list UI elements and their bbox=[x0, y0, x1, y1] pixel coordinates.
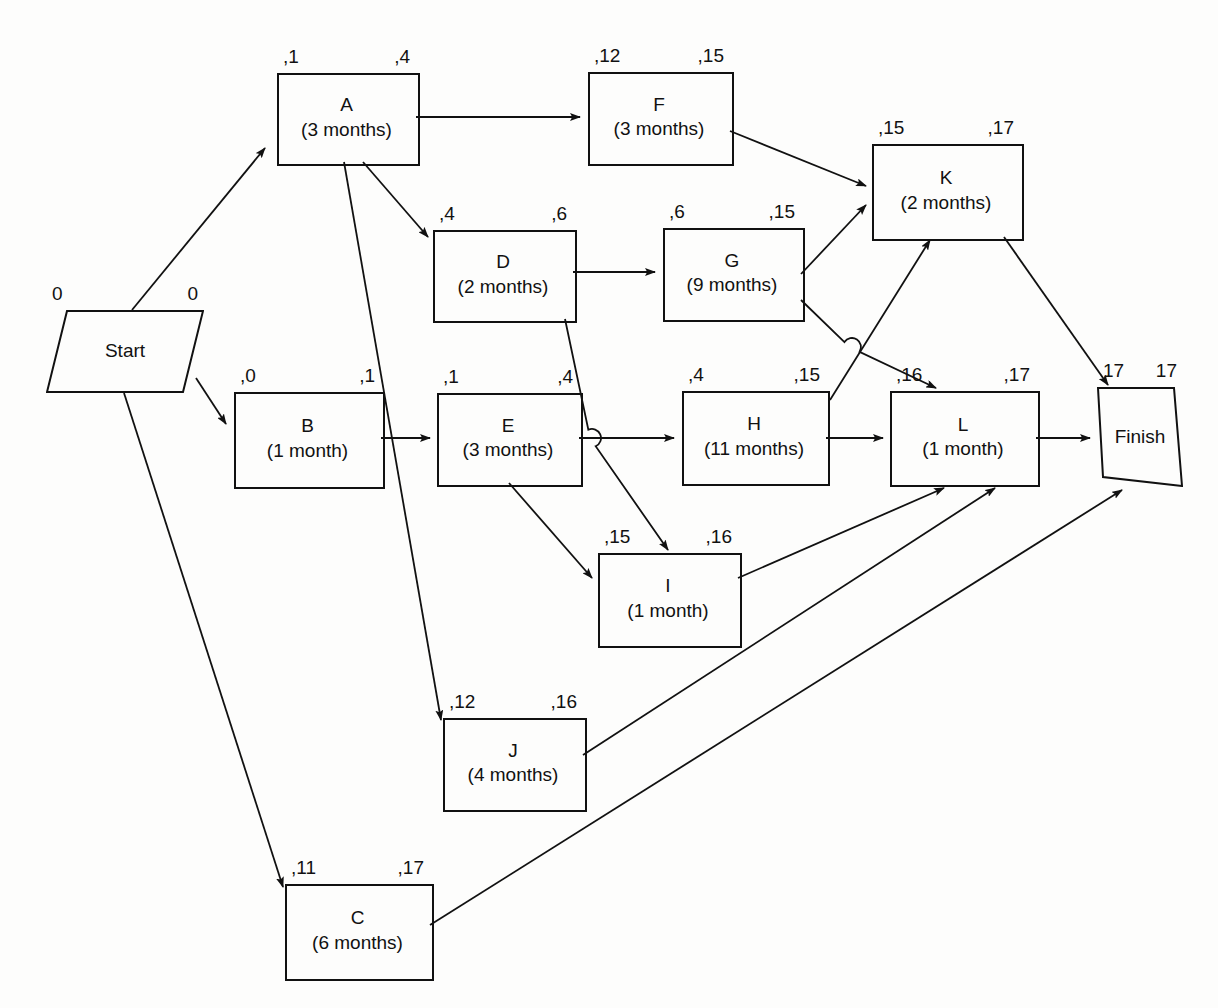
edge-start-to-A bbox=[132, 148, 265, 310]
node-finish[interactable]: Finish1717 bbox=[1097, 387, 1183, 487]
node-duration-C: (6 months) bbox=[312, 931, 403, 955]
node-text-J: J(4 months) bbox=[443, 718, 583, 808]
node-late-label-K: ,17 bbox=[988, 117, 1014, 139]
node-duration-E: (3 months) bbox=[463, 438, 554, 462]
node-H[interactable]: H(11 months),4,15 bbox=[682, 391, 826, 482]
node-early-label-F: ,12 bbox=[594, 45, 620, 67]
node-duration-I: (1 month) bbox=[627, 599, 708, 623]
node-J[interactable]: J(4 months),12,16 bbox=[443, 718, 583, 808]
edge-F-to-K bbox=[730, 131, 866, 186]
node-label-J: J bbox=[508, 739, 518, 763]
node-text-C: C(6 months) bbox=[285, 884, 430, 977]
node-late-label-A: ,4 bbox=[394, 46, 410, 68]
edge-K-to-finish bbox=[1004, 237, 1108, 385]
node-label-C: C bbox=[351, 906, 365, 930]
node-text-B: B(1 month) bbox=[234, 392, 381, 485]
node-early-label-start: 0 bbox=[52, 283, 63, 305]
node-B[interactable]: B(1 month),0,1 bbox=[234, 392, 381, 485]
node-late-label-B: ,1 bbox=[359, 365, 375, 387]
edge-C-to-finish bbox=[430, 490, 1122, 925]
node-label-G: G bbox=[725, 249, 740, 273]
node-C[interactable]: C(6 months),11,17 bbox=[285, 884, 430, 977]
node-early-label-C: ,11 bbox=[291, 857, 316, 879]
node-duration-B: (1 month) bbox=[267, 439, 348, 463]
node-label-E: E bbox=[502, 414, 515, 438]
node-text-H: H(11 months) bbox=[682, 391, 826, 482]
node-duration-K: (2 months) bbox=[901, 191, 992, 215]
node-early-label-K: ,15 bbox=[878, 117, 904, 139]
node-text-A: A(3 months) bbox=[277, 73, 416, 162]
node-D[interactable]: D(2 months),4,6 bbox=[433, 230, 573, 319]
node-label-I: I bbox=[665, 574, 670, 598]
node-label-L: L bbox=[958, 413, 969, 437]
node-duration-D: (2 months) bbox=[458, 275, 549, 299]
node-F[interactable]: F(3 months),12,15 bbox=[588, 72, 730, 162]
node-text-F: F(3 months) bbox=[588, 72, 730, 162]
network-diagram-canvas: Start00A(3 months),1,4B(1 month),0,1C(6 … bbox=[0, 0, 1218, 1008]
node-text-I: I(1 month) bbox=[598, 553, 738, 644]
node-label-H: H bbox=[747, 412, 761, 436]
node-late-label-finish: 17 bbox=[1156, 360, 1177, 382]
node-duration-A: (3 months) bbox=[301, 118, 392, 142]
node-label-start: Start bbox=[105, 339, 145, 363]
edge-E-to-I bbox=[509, 483, 592, 578]
node-E[interactable]: E(3 months),1,4 bbox=[437, 393, 579, 483]
node-late-label-E: ,4 bbox=[557, 366, 573, 388]
node-early-label-J: ,12 bbox=[449, 691, 475, 713]
node-text-start: Start bbox=[46, 310, 204, 393]
node-early-label-G: ,6 bbox=[669, 201, 685, 223]
node-text-K: K(2 months) bbox=[872, 144, 1020, 237]
node-duration-F: (3 months) bbox=[614, 117, 705, 141]
node-text-L: L(1 month) bbox=[890, 391, 1036, 483]
edge-I-to-L bbox=[738, 488, 944, 578]
node-label-F: F bbox=[653, 93, 665, 117]
node-text-finish: Finish bbox=[1097, 387, 1183, 487]
node-L[interactable]: L(1 month),16,17 bbox=[890, 391, 1036, 483]
node-text-D: D(2 months) bbox=[433, 230, 573, 319]
node-K[interactable]: K(2 months),15,17 bbox=[872, 144, 1020, 237]
node-late-label-G: ,15 bbox=[769, 201, 795, 223]
node-late-label-F: ,15 bbox=[698, 45, 724, 67]
node-label-finish: Finish bbox=[1115, 425, 1166, 449]
node-label-K: K bbox=[940, 166, 953, 190]
node-late-label-L: ,17 bbox=[1004, 364, 1030, 386]
node-duration-H: (11 months) bbox=[704, 437, 804, 461]
node-label-B: B bbox=[301, 414, 314, 438]
node-early-label-finish: 17 bbox=[1103, 360, 1124, 382]
node-early-label-I: ,15 bbox=[604, 526, 630, 548]
edge-A-to-D bbox=[363, 162, 428, 237]
node-late-label-D: ,6 bbox=[551, 203, 567, 225]
node-early-label-H: ,4 bbox=[688, 364, 704, 386]
node-early-label-L: ,16 bbox=[896, 364, 922, 386]
node-G[interactable]: G(9 months),6,15 bbox=[663, 228, 801, 318]
node-late-label-I: ,16 bbox=[706, 526, 732, 548]
node-early-label-D: ,4 bbox=[439, 203, 455, 225]
node-early-label-E: ,1 bbox=[443, 366, 459, 388]
node-label-A: A bbox=[340, 93, 353, 117]
node-late-label-J: ,16 bbox=[551, 691, 577, 713]
node-late-label-H: ,15 bbox=[794, 364, 820, 386]
node-I[interactable]: I(1 month),15,16 bbox=[598, 553, 738, 644]
node-duration-G: (9 months) bbox=[687, 273, 778, 297]
node-text-E: E(3 months) bbox=[437, 393, 579, 483]
node-early-label-A: ,1 bbox=[283, 46, 299, 68]
node-late-label-start: 0 bbox=[187, 283, 198, 305]
node-duration-L: (1 month) bbox=[922, 437, 1003, 461]
node-label-D: D bbox=[496, 250, 510, 274]
node-late-label-C: ,17 bbox=[398, 857, 424, 879]
node-early-label-B: ,0 bbox=[240, 365, 256, 387]
node-duration-J: (4 months) bbox=[468, 763, 559, 787]
node-text-G: G(9 months) bbox=[663, 228, 801, 318]
edge-G-to-K bbox=[801, 205, 866, 274]
node-start[interactable]: Start00 bbox=[46, 310, 204, 393]
node-A[interactable]: A(3 months),1,4 bbox=[277, 73, 416, 162]
